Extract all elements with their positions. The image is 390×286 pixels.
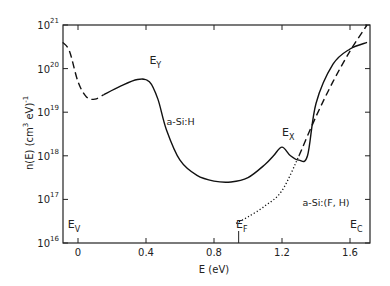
- annotation-label: EC: [350, 218, 363, 234]
- annotation-label: EF: [236, 218, 248, 234]
- series-line: [299, 25, 367, 156]
- x-tick-label: 0: [75, 247, 81, 258]
- x-tick-label: 1.6: [342, 247, 358, 258]
- annotation-label: a-Si:H: [166, 116, 194, 127]
- x-tick-label: 0.8: [206, 247, 222, 258]
- y-axis-label: n(E) (cm3 eV)-1: [22, 96, 35, 170]
- y-tick-label: 1020: [37, 61, 59, 75]
- data-curves: [63, 25, 367, 243]
- y-tick-label: 1016: [37, 235, 59, 249]
- annotation-label: a-Si:(F, H): [302, 197, 349, 208]
- plot-frame: [63, 25, 370, 243]
- y-tick-label: 1018: [37, 148, 59, 162]
- x-tick-label: 1.2: [274, 247, 290, 258]
- series-line: [236, 156, 299, 224]
- y-tick-label: 1017: [37, 191, 59, 205]
- y-tick-label: 1019: [37, 104, 59, 118]
- y-tick-label: 1021: [37, 17, 59, 31]
- axis-ticks: 00.40.81.21.6101610171018101910201021: [37, 17, 370, 258]
- series-line: [104, 42, 368, 182]
- annotation-label: EY: [149, 54, 161, 70]
- x-axis-label: E (eV): [199, 264, 229, 275]
- annotation-label: EV: [68, 218, 81, 234]
- svg-text:n(E) (cm3 eV)-1: n(E) (cm3 eV)-1: [22, 96, 35, 170]
- density-of-states-chart: 00.40.81.21.6101610171018101910201021 EY…: [0, 0, 390, 286]
- annotation-label: EX: [282, 126, 295, 142]
- annotations: EYa-Si:HEXa-Si:(F, H)EVEFEC: [68, 54, 363, 234]
- series-line: [63, 42, 104, 99]
- x-tick-label: 0.4: [138, 247, 154, 258]
